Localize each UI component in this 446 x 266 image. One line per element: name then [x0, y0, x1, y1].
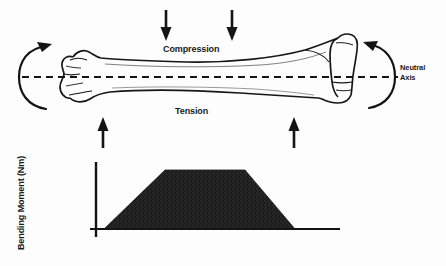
bending-moment-trapezoid	[104, 170, 295, 229]
up-reaction-arrow-left	[98, 117, 109, 148]
down-load-arrow-left	[161, 10, 172, 41]
bending-moment-figure: Compression Tension Neutral Axis Bending…	[0, 0, 446, 266]
bending-moment-plot	[90, 162, 340, 237]
neutral-axis-label-line2: Axis	[400, 73, 425, 83]
right-moment-arc-icon	[363, 41, 395, 108]
figure-canvas	[0, 0, 446, 266]
tension-label: Tension	[175, 106, 208, 116]
down-load-arrow-right	[227, 10, 238, 41]
up-reaction-arrow-right	[289, 117, 300, 148]
y-axis-label: Bending Moment (Nm)	[16, 149, 26, 257]
neutral-axis-label-line1: Neutral	[400, 63, 425, 73]
compression-label: Compression	[163, 44, 219, 54]
neutral-axis-label: Neutral Axis	[400, 63, 425, 83]
left-moment-arc-icon	[19, 42, 52, 109]
